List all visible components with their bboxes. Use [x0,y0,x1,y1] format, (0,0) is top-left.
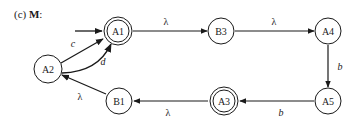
edge-b1-a2: λ [62,75,106,102]
node-label: A2 [42,64,54,75]
edge-label: λ [272,16,277,27]
node-b3: B3 [208,18,234,44]
edge-label: c [71,38,76,49]
edge-label: d [101,56,107,67]
edge-b3-a4: λ [235,16,314,31]
edge-a2-a1-c: c [61,38,103,63]
edge-a5-a3: b [240,101,314,118]
edge-label: λ [78,91,83,102]
node-a4: A4 [315,18,341,44]
edge-label: b [338,61,343,72]
node-a5: A5 [315,88,341,114]
edge-label: λ [166,107,171,118]
edge-a3-b1: λ [134,101,208,118]
node-label: A4 [322,26,334,37]
node-label: A1 [112,26,124,37]
node-a2: A2 [34,55,62,83]
edge-label: b [279,107,284,118]
node-label: B1 [113,96,125,107]
node-a1: A1 [104,17,132,45]
node-label: A3 [218,96,230,107]
node-label: B3 [215,26,227,37]
node-label: A5 [322,96,334,107]
edge-a4-a5: b [328,45,343,87]
automaton-diagram: λ λ b b λ λ c d A1 B3 [0,0,356,124]
edge-a1-b3: λ [133,16,207,31]
edge-label: λ [164,16,169,27]
node-a3: A3 [210,87,238,115]
node-b1: B1 [106,88,132,114]
